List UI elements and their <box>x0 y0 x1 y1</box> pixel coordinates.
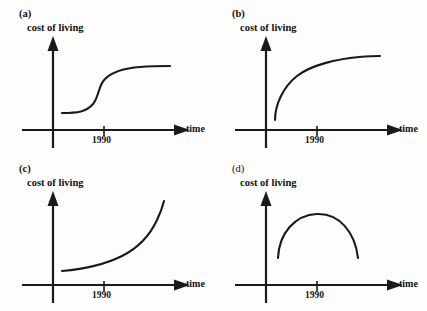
y-axis-title-c: cost of living <box>27 178 84 189</box>
data-curve-sigmoid <box>62 66 170 113</box>
data-curve-logarithmic <box>275 56 380 120</box>
x-tick-label-d-1990: 1990 <box>305 291 324 301</box>
data-curve-inverted-u <box>278 214 358 258</box>
chart-panel-d: (d) cost of living time 1990 <box>213 155 426 310</box>
x-axis-title-a: time <box>186 124 205 134</box>
y-axis-arrowhead <box>48 36 59 51</box>
figure-sheet: (a) cost of living time 1990 (b) cost of… <box>0 0 427 311</box>
panel-label-c: (c) <box>19 164 31 175</box>
panel-label-b: (b) <box>232 9 245 20</box>
chart-panel-b: (b) cost of living time 1990 <box>213 0 426 155</box>
chart-panel-c: (c) cost of living time 1990 <box>0 155 213 310</box>
x-tick-label-b-1990: 1990 <box>305 136 324 146</box>
y-axis-title-d: cost of living <box>240 178 297 189</box>
y-axis-arrowhead <box>48 191 59 206</box>
y-axis-arrowhead <box>261 191 272 206</box>
y-axis-title-a: cost of living <box>27 23 84 34</box>
x-axis-title-c: time <box>186 279 205 289</box>
chart-panel-a: (a) cost of living time 1990 <box>0 0 213 155</box>
x-tick-label-a-1990: 1990 <box>92 136 111 146</box>
y-axis-arrowhead <box>261 36 272 51</box>
x-axis-title-b: time <box>399 124 418 134</box>
x-tick-label-c-1990: 1990 <box>92 291 111 301</box>
y-axis-title-b: cost of living <box>240 23 297 34</box>
panel-label-d: (d) <box>232 164 244 175</box>
data-curve-exponential <box>62 201 164 271</box>
panel-label-a: (a) <box>19 9 31 20</box>
x-axis-title-d: time <box>399 279 418 289</box>
